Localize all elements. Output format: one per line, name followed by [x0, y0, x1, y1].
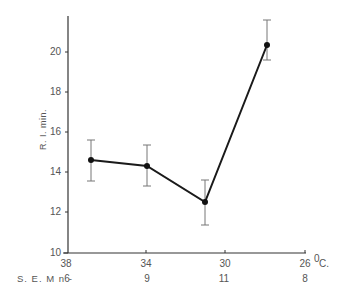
y-tick-12: 12	[50, 206, 62, 217]
sem-n-values: 6 9 11 8	[64, 273, 308, 284]
y-tick-18: 18	[50, 86, 62, 97]
data-point-4	[264, 42, 270, 48]
sem-n-26: 8	[302, 273, 308, 284]
data-point-1	[88, 157, 94, 163]
x-tick-30: 30	[219, 258, 231, 269]
sem-n-38: 6	[64, 273, 70, 284]
data-points	[88, 42, 270, 205]
y-axis-title: R. I. min.	[38, 109, 48, 150]
data-line	[91, 45, 267, 202]
y-tick-14: 14	[50, 166, 62, 177]
data-point-2	[144, 163, 150, 169]
x-tick-26: 26	[299, 258, 311, 269]
line-chart: 10 12 14 16 18 20 R. I. min. 38 34 30 26…	[0, 0, 342, 300]
y-tick-labels: 10 12 14 16 18 20	[50, 46, 62, 258]
x-unit-label: C.	[319, 258, 329, 269]
y-tick-20: 20	[50, 46, 62, 57]
data-point-3	[202, 199, 208, 205]
y-tick-16: 16	[50, 126, 62, 137]
y-tick-10: 10	[50, 247, 62, 258]
sem-n-34: 9	[144, 273, 150, 284]
error-bars	[87, 20, 271, 225]
x-tick-labels: 38 34 30 26	[60, 258, 311, 269]
x-tick-38: 38	[60, 258, 72, 269]
x-tick-34: 34	[140, 258, 152, 269]
sem-n-30: 11	[219, 273, 230, 284]
